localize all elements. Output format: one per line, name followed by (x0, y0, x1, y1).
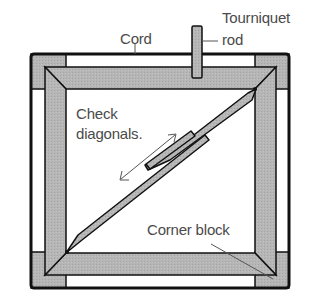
tourniquet-label-line1: Tourniquet (222, 9, 290, 26)
frame-left (45, 67, 66, 275)
tourniquet-label-line2: rod (222, 31, 243, 48)
corner-block-label: Corner block (147, 221, 230, 238)
stick-tip-top (253, 87, 257, 91)
frame-diagram (0, 0, 316, 302)
check-diagonals-label-line2: diagonals. (76, 125, 142, 142)
frame-bottom (45, 253, 276, 275)
check-diagonals-label-line1: Check (76, 105, 118, 122)
frame-top (45, 67, 276, 89)
tourniquet-rod (192, 26, 202, 78)
stick-tip-bottom (65, 250, 69, 254)
frame-right (255, 67, 276, 275)
cord-label: Cord (120, 30, 152, 47)
